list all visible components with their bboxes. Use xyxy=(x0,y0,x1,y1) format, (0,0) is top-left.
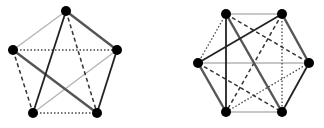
pentagon-graph xyxy=(8,6,122,118)
node-left xyxy=(8,45,18,55)
hexagon-graph xyxy=(193,9,314,117)
edge-black-right-bottom-right xyxy=(97,50,117,113)
edge-light-right-bottom-left xyxy=(33,50,117,113)
edge-dashed-left-bottom-left xyxy=(13,50,33,113)
edge-dashed-top-bottom-right xyxy=(66,11,97,113)
edge-black-top-right-left xyxy=(198,14,282,63)
edge-dark-left-bottom-right xyxy=(13,50,97,113)
node-bottom-left xyxy=(28,108,38,118)
edge-dark-top-right-right xyxy=(282,14,309,63)
node-left xyxy=(193,58,203,68)
node-bottom-right xyxy=(92,108,102,118)
edge-light-top-left xyxy=(13,11,66,50)
node-top-left xyxy=(221,9,231,19)
node-right xyxy=(304,58,314,68)
edge-dark-top-right xyxy=(66,11,117,50)
node-right xyxy=(112,45,122,55)
node-top xyxy=(61,6,71,16)
node-bottom-left xyxy=(221,107,231,117)
edge-black-top-bottom-left xyxy=(33,11,66,113)
graph-drawing xyxy=(0,0,324,128)
diagram-canvas xyxy=(0,0,324,128)
node-bottom-right xyxy=(277,107,287,117)
node-top-right xyxy=(277,9,287,19)
